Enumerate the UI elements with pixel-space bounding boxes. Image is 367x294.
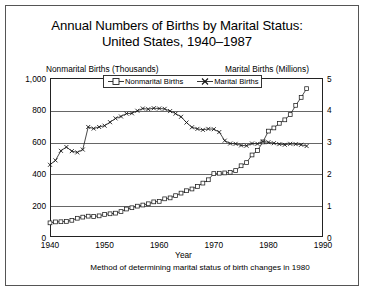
- data-point-marker: [245, 161, 249, 165]
- y-axis-left-tick-label: 0: [4, 233, 46, 243]
- data-point-marker: [250, 153, 254, 157]
- data-point-marker: [108, 120, 112, 124]
- y-axis-left-tick-label: 600: [4, 137, 46, 147]
- data-point-marker: [185, 189, 189, 193]
- data-point-marker: [64, 220, 68, 224]
- chart-footnote: Method of determining marital status of …: [40, 263, 360, 272]
- data-point-marker: [190, 187, 194, 191]
- data-point-marker: [141, 203, 145, 207]
- data-point-marker: [54, 220, 58, 224]
- data-point-marker: [48, 221, 52, 225]
- x-marker-icon: [197, 77, 213, 86]
- data-point-marker: [272, 126, 276, 130]
- chart-legend: Nonmarital Births Marital Births: [103, 75, 262, 88]
- data-point-marker: [152, 200, 156, 204]
- x-axis-title: Year: [0, 250, 367, 260]
- data-point-marker: [174, 194, 178, 198]
- data-point-marker: [179, 191, 183, 195]
- data-point-marker: [157, 199, 161, 203]
- data-point-marker: [201, 181, 205, 185]
- data-point-marker: [212, 172, 216, 176]
- data-point-marker: [114, 116, 118, 120]
- y-axis-left-tick-label: 1,000: [4, 74, 46, 84]
- data-point-marker: [288, 113, 292, 117]
- data-point-marker: [64, 145, 68, 149]
- x-axis-tick-label: 1990: [314, 240, 332, 250]
- data-point-marker: [277, 121, 281, 125]
- y-axis-right-tick-label: 4: [327, 105, 332, 115]
- data-point-marker: [239, 164, 243, 168]
- data-point-marker: [223, 171, 227, 175]
- data-point-marker: [168, 109, 172, 113]
- data-point-marker: [179, 115, 183, 119]
- data-point-marker: [223, 139, 227, 143]
- y-axis-left-tick-label: 400: [4, 169, 46, 179]
- y-axis-right-tick-label: 2: [327, 169, 332, 179]
- data-point-marker: [146, 202, 150, 206]
- data-point-marker: [174, 112, 178, 116]
- data-point-marker: [114, 211, 118, 215]
- x-axis-tick-label: 1950: [95, 240, 113, 250]
- data-point-marker: [48, 163, 52, 167]
- data-point-marker: [206, 178, 210, 182]
- data-point-marker: [75, 216, 79, 220]
- y-axis-right-tick-label: 3: [327, 137, 332, 147]
- data-point-marker: [217, 130, 221, 134]
- legend-label-marital: Marital Births: [214, 77, 258, 86]
- data-point-marker: [185, 121, 189, 125]
- data-point-marker: [234, 169, 238, 173]
- x-axis-tick-label: 1970: [205, 240, 223, 250]
- data-point-marker: [130, 206, 134, 210]
- data-point-marker: [59, 149, 63, 153]
- data-point-marker: [305, 87, 309, 91]
- x-axis-tick-label: 1960: [150, 240, 168, 250]
- data-point-marker: [294, 103, 298, 107]
- data-point-marker: [119, 114, 123, 118]
- y-axis-right-tick-label: 5: [327, 74, 332, 84]
- data-point-marker: [92, 215, 96, 219]
- data-point-marker: [256, 149, 260, 153]
- legend-label-nonmarital: Nonmarital Births: [125, 77, 183, 86]
- data-point-marker: [59, 220, 63, 224]
- series-marital-births: [48, 106, 309, 167]
- data-point-marker: [135, 204, 139, 208]
- data-point-marker: [196, 185, 200, 189]
- data-point-marker: [283, 118, 287, 122]
- data-point-marker: [119, 210, 123, 214]
- data-point-marker: [103, 213, 107, 217]
- square-marker-icon: [108, 77, 124, 86]
- data-point-marker: [135, 109, 139, 113]
- data-point-marker: [267, 129, 271, 133]
- x-axis-tick-label: 1940: [41, 240, 59, 250]
- y-axis-left-tick-label: 800: [4, 105, 46, 115]
- legend-item-marital: Marital Births: [197, 77, 258, 86]
- y-axis-left-tick-label: 200: [4, 201, 46, 211]
- data-point-marker: [125, 207, 129, 211]
- y-axis-right-tick-label: 1: [327, 201, 332, 211]
- data-point-marker: [168, 196, 172, 200]
- series-line: [50, 89, 307, 223]
- legend-item-nonmarital: Nonmarital Births: [108, 77, 183, 86]
- data-point-marker: [53, 158, 57, 162]
- data-point-marker: [81, 215, 85, 219]
- x-axis-tick-label: 1980: [259, 240, 277, 250]
- data-point-marker: [97, 214, 101, 218]
- data-point-marker: [86, 214, 90, 218]
- chart-figure: Annual Numbers of Births by Marital Stat…: [0, 0, 367, 294]
- series-line: [50, 108, 307, 165]
- data-point-marker: [163, 197, 167, 201]
- series-nonmarital-births: [48, 87, 308, 225]
- data-point-marker: [70, 218, 74, 222]
- data-point-marker: [228, 170, 232, 174]
- data-point-marker: [108, 212, 112, 216]
- data-point-marker: [299, 96, 303, 100]
- data-point-marker: [217, 171, 221, 175]
